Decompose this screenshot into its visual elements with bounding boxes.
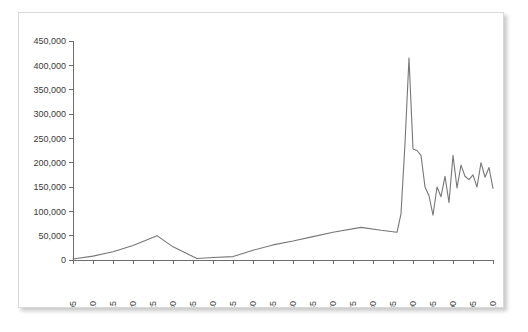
x-tick-label: 1905 <box>68 301 78 307</box>
x-tick-label: 1915 <box>108 301 118 307</box>
y-tick-label: 50,000 <box>38 231 66 241</box>
x-tick-label: 1920 <box>128 301 138 307</box>
x-tick-label: 2005 <box>468 301 478 307</box>
y-tick-label: 100,000 <box>33 207 66 217</box>
x-tick-label: 1990 <box>408 301 418 307</box>
x-tick-label: 1975 <box>348 301 358 307</box>
x-tick-label: 1980 <box>368 301 378 307</box>
x-tick-label: 1935 <box>188 301 198 307</box>
x-tick-label: 1930 <box>168 301 178 307</box>
x-tick-label: 1970 <box>328 301 338 307</box>
x-tick-label: 1965 <box>308 301 318 307</box>
x-tick-label: 2000 <box>448 301 458 307</box>
y-tick-label: 450,000 <box>33 36 66 46</box>
x-tick-label: 1950 <box>248 301 258 307</box>
x-tick-label: 1925 <box>148 301 158 307</box>
x-tick-label: 1995 <box>428 301 438 307</box>
chart-figure: 450,000400,000350,000300,000250,000200,0… <box>18 12 504 308</box>
x-tick-label: 1910 <box>88 301 98 307</box>
x-tick-label: 2010 <box>488 301 498 307</box>
y-tick-label: 300,000 <box>33 109 66 119</box>
x-tick-label: 1955 <box>268 301 278 307</box>
line-chart-plot: 450,000400,000350,000300,000250,000200,0… <box>19 13 503 307</box>
x-tick-label: 1960 <box>288 301 298 307</box>
x-tick-label: 1945 <box>228 301 238 307</box>
y-tick-label: 400,000 <box>33 61 66 71</box>
x-tick-label: 1940 <box>208 301 218 307</box>
y-tick-label: 250,000 <box>33 134 66 144</box>
y-tick-label: 150,000 <box>33 182 66 192</box>
x-tick-label: 1985 <box>388 301 398 307</box>
y-tick-label: 0 <box>61 255 66 265</box>
y-tick-label: 200,000 <box>33 158 66 168</box>
y-tick-label: 350,000 <box>33 85 66 95</box>
data-series-line-1 <box>73 58 493 259</box>
